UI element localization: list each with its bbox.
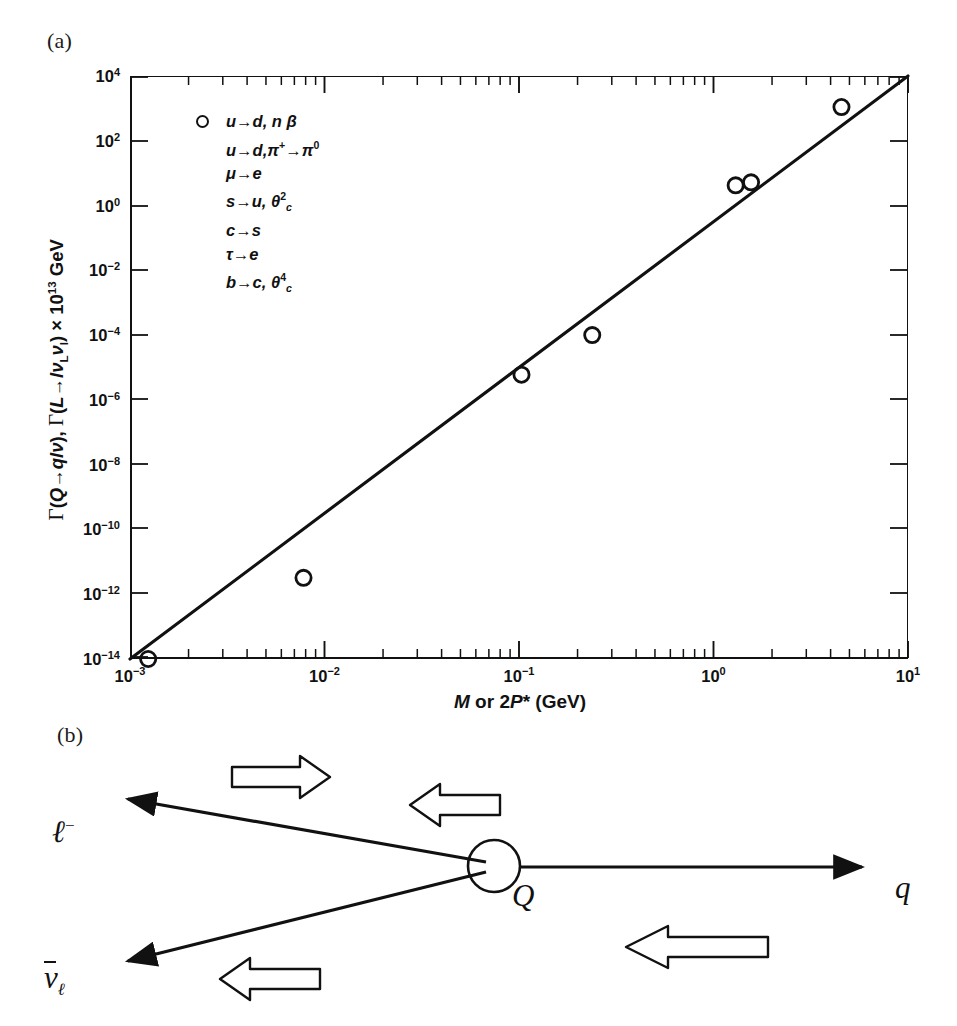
y-tick-label: 10−14	[0, 649, 120, 670]
legend-item-u-to-d-pion: u→d,π+→π0	[226, 134, 319, 162]
y-axis-L: L	[46, 396, 67, 407]
x-axis-title-or: or 2	[470, 691, 510, 712]
y-axis-qlnu: qlν	[46, 443, 67, 470]
legend-item-s-to-u: s→u, θ2c	[226, 185, 319, 219]
x-tick-label: 10−2	[309, 665, 340, 686]
feynman-diagram-panel-b: (b) ℓ− νℓ Q q	[0, 710, 957, 1026]
y-tick-label: 104	[0, 66, 120, 87]
y-axis-paren-1: (	[46, 502, 67, 508]
momentum-arrow-upper-left	[410, 784, 500, 826]
overbar	[44, 961, 56, 963]
panel-a-label: (a)	[47, 28, 72, 54]
x-axis-title-unit: (GeV)	[530, 691, 586, 712]
momentum-arrow-lower-left	[220, 958, 320, 1000]
lepton-label: ℓ−	[52, 814, 75, 850]
legend-open-circle-icon	[196, 115, 209, 128]
y-axis-paren-2: ),	[46, 426, 67, 442]
y-axis-Q: Q	[46, 488, 67, 502]
chart-legend: u→d, n β u→d,π+→π0 μ→e s→u, θ2c c→s τ→e …	[196, 110, 319, 301]
y-axis-nu-2: ν	[46, 345, 67, 355]
y-axis-times-10: ) × 10	[46, 294, 67, 342]
y-axis-unit: GeV	[46, 239, 67, 281]
y-axis-arrow-2: →	[46, 378, 67, 397]
legend-item-u-to-d-neutron-beta: u→d, n β	[226, 110, 319, 134]
y-axis-sub-L: L	[58, 356, 70, 363]
y-axis-sub-l: l	[58, 342, 70, 345]
legend-item-c-to-s: c→s	[226, 219, 319, 243]
diagram-graphics	[0, 710, 957, 1026]
y-axis-arrow-1: →	[46, 469, 67, 488]
legend-item-b-to-c: b→c, θ4c	[226, 266, 319, 300]
x-tick-label: 10−3	[115, 665, 146, 686]
y-axis-gamma-1: Γ	[44, 508, 68, 520]
x-axis-title-m: M	[454, 691, 470, 712]
momentum-arrow-lower-right	[626, 926, 768, 968]
x-axis-title-p: P	[510, 691, 523, 712]
x-tick-label: 100	[701, 665, 725, 686]
y-axis-gamma-2: Γ	[44, 414, 68, 426]
y-axis-title: Γ(Q→qlν), Γ(L→lνLνl) × 1013 GeV	[44, 160, 70, 600]
legend-entry-list: u→d, n β u→d,π+→π0 μ→e s→u, θ2c c→s τ→e …	[226, 110, 319, 301]
heavy-quark-label: Q	[512, 878, 534, 914]
y-axis-paren-3: (	[46, 408, 67, 414]
x-tick-label: 10−1	[504, 665, 535, 686]
y-tick-label: 102	[0, 131, 120, 152]
y-axis-lnu: lν	[46, 363, 67, 378]
light-quark-label: q	[895, 870, 911, 906]
antineutrino-line	[128, 872, 486, 961]
antineutrino-label: νℓ	[44, 960, 65, 1000]
y-axis-exponent: 13	[46, 281, 58, 294]
chart-panel-a: (a)	[0, 0, 957, 710]
x-axis-title-star: *	[523, 691, 530, 712]
legend-item-tau-to-e: τ→e	[226, 243, 319, 267]
momentum-arrow-top-right	[232, 756, 330, 798]
x-tick-label: 101	[896, 665, 920, 686]
legend-item-mu-to-e: μ→e	[226, 162, 319, 186]
